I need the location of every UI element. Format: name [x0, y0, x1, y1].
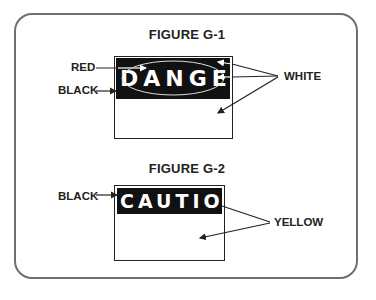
danger-header: DANGER [116, 58, 230, 99]
caution-sign: CAUTION [114, 185, 225, 261]
danger-sign: DANGER [114, 56, 233, 139]
figure-g1-title: FIGURE G-1 [127, 27, 247, 42]
label-black-g2: BLACK [58, 190, 98, 202]
label-red: RED [71, 61, 95, 73]
label-white: WHITE [284, 70, 321, 82]
figure-g2-title: FIGURE G-2 [127, 161, 247, 176]
label-yellow: YELLOW [274, 216, 323, 228]
label-black-g1: BLACK [58, 84, 98, 96]
caution-header: CAUTION [117, 188, 222, 214]
